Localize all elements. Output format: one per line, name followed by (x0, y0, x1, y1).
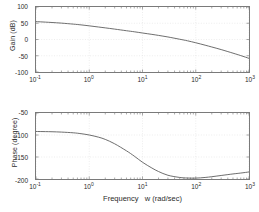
gain-plot-canvas (36, 7, 249, 72)
gain-ytick-0: 0 (4, 36, 28, 43)
phase-ytick-minus150: -150 (4, 154, 28, 161)
gain-ytick-100: 100 (4, 3, 28, 10)
gain-xtick-3: 102 (185, 76, 207, 83)
gain-plot-axes (35, 6, 250, 73)
gain-xtick-4: 103 (239, 76, 259, 83)
gain-ytick-minus100: -100 (4, 69, 28, 76)
phase-plot-axes (35, 112, 250, 180)
phase-ytick-minus50: -50 (4, 109, 28, 116)
phase-xtick-2: 101 (132, 183, 154, 190)
phase-xtick-0: 10-1 (24, 183, 46, 190)
phase-xtick-1: 100 (78, 183, 100, 190)
gain-xtick-1: 100 (78, 76, 100, 83)
phase-xtick-4: 103 (239, 183, 259, 190)
bode-plot-figure: Gain (dB) 100 50 0 -50 -100 10-1 100 101… (0, 0, 259, 212)
phase-gridlines (36, 113, 249, 179)
gain-ytick-50: 50 (4, 20, 28, 27)
phase-ytick-minus100: -100 (4, 132, 28, 139)
phase-plot-canvas (36, 113, 249, 179)
gain-gridlines (36, 7, 249, 72)
frequency-axis-label: Frequency w (rad/sec) (35, 194, 250, 203)
gain-xtick-0: 10-1 (24, 76, 46, 83)
gain-xtick-2: 101 (132, 76, 154, 83)
phase-axis-label: Phase (degree) (11, 107, 18, 179)
phase-xtick-3: 102 (185, 183, 207, 190)
gain-ytick-minus50: -50 (4, 53, 28, 60)
